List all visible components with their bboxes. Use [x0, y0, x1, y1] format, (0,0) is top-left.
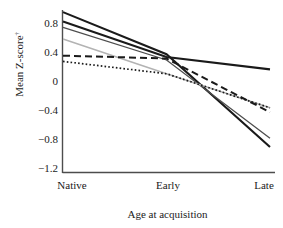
series-lines	[63, 12, 270, 147]
y-tick-label-5: −1.2	[16, 163, 58, 174]
x-tick-label-native: Native	[44, 180, 100, 191]
y-axis-title-text: Mean Z-score	[13, 35, 25, 96]
x-axis-title: Age at acquisition	[55, 208, 280, 220]
chart-line-series-5	[63, 56, 270, 113]
chart-line-series-3	[63, 27, 270, 138]
chart-figure: 0.80.40−0.4−0.8−1.2 Native Early Late Me…	[0, 0, 283, 228]
y-axis-title-dagger: †	[13, 32, 21, 36]
chart-line-series-6	[63, 61, 270, 107]
y-tick-label-4: −0.8	[16, 134, 58, 145]
y-axis-title: Mean Z-score†	[13, 9, 26, 119]
axis-lines	[63, 10, 276, 173]
chart-line-series-2	[63, 22, 270, 70]
x-tick-label-late: Late	[244, 180, 283, 191]
x-tick-label-early: Early	[140, 180, 196, 191]
